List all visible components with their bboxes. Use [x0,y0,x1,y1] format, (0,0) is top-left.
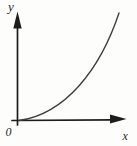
origin-label: 0 [6,125,12,139]
y-axis-label: y [6,0,14,14]
x-axis-line [12,120,112,121]
function-curve [19,13,119,121]
x-axis-arrowhead [110,115,127,124]
graph-svg: y x 0 [0,0,137,146]
y-axis-arrowhead [13,12,21,29]
x-axis-label: x [122,129,129,143]
function-graph: y x 0 [0,0,137,146]
